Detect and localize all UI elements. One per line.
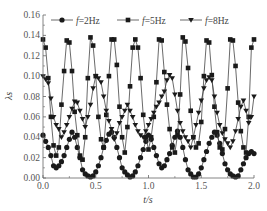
- legend-item-f-2hz: f=2Hz: [51, 16, 100, 26]
- y-tick-label: 0.14: [23, 30, 40, 40]
- legend: f=2Hzf=5Hzf=8Hz: [51, 16, 229, 26]
- legend-label: f=2Hz: [76, 16, 100, 26]
- legend-item-f-8hz: f=8Hz: [180, 16, 229, 26]
- legend-label: f=8Hz: [205, 16, 229, 26]
- x-tick-label: 2.0: [248, 181, 260, 191]
- legend-label: f=5Hz: [142, 16, 166, 26]
- y-tick-label: 0.16: [23, 10, 40, 20]
- y-tick-label: 0.08: [23, 92, 40, 102]
- x-tick-label: 1.5: [195, 181, 207, 191]
- series-f-5hz: [41, 35, 257, 162]
- legend-item-f-5hz: f=5Hz: [117, 16, 166, 26]
- x-tick-label: 0.0: [37, 181, 49, 191]
- y-tick-label: 0.10: [23, 71, 40, 81]
- x-axis-title: t/s: [143, 194, 153, 205]
- x-tick-label: 1.0: [143, 181, 155, 191]
- line-chart: 0.000.020.040.060.080.100.120.140.160.00…: [0, 0, 267, 211]
- y-axis-title: λs: [3, 92, 14, 101]
- y-tick-label: 0.04: [23, 132, 40, 142]
- x-tick-label: 0.5: [90, 181, 102, 191]
- plot-series: [40, 35, 257, 179]
- y-tick-label: 0.06: [23, 112, 40, 122]
- y-tick-label: 0.12: [23, 51, 40, 61]
- y-tick-label: 0.02: [23, 153, 40, 163]
